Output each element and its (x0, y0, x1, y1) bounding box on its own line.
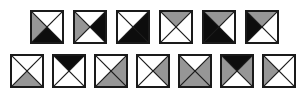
tile-r1c1 (30, 10, 64, 44)
tile-r1c6 (245, 10, 279, 44)
tile-r2c4 (136, 54, 170, 88)
tile-r1c2 (73, 10, 107, 44)
tile-r1c5 (202, 10, 236, 44)
tile-r2c6 (220, 54, 254, 88)
tile-figure (0, 0, 305, 101)
tile-r2c2 (52, 54, 86, 88)
tile-r1c4 (159, 10, 193, 44)
tile-r2c1 (10, 54, 44, 88)
tile-r2c3 (94, 54, 128, 88)
tile-r2c5 (178, 54, 212, 88)
tile-r2c7 (262, 54, 296, 88)
tile-r1c3 (116, 10, 150, 44)
